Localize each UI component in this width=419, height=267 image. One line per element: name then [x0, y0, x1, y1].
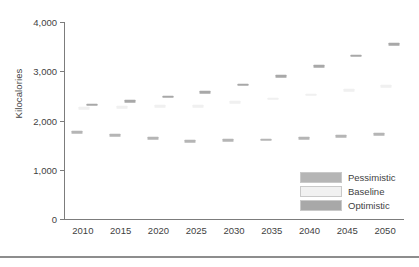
data-marker [109, 134, 120, 137]
y-tick [60, 22, 64, 23]
legend-label: Pessimistic [348, 172, 396, 183]
y-tick-label: 2,000 [33, 115, 57, 126]
x-tick-label: 2035 [261, 225, 282, 236]
y-tick-label: 3,000 [33, 66, 57, 77]
data-marker [192, 105, 203, 108]
y-tick [60, 219, 64, 220]
x-tick-label: 2020 [148, 225, 169, 236]
data-marker [351, 54, 362, 57]
y-tick [60, 121, 64, 122]
y-tick-label: 1,000 [33, 164, 57, 175]
x-tick-label: 2040 [299, 225, 320, 236]
data-marker [154, 105, 165, 108]
chart-figure: Kilocalories 01,0002,0003,0004,000 20102… [0, 0, 419, 267]
chart-legend: PessimisticBaselineOptimistic [300, 171, 396, 211]
data-marker [116, 106, 127, 109]
data-marker [230, 101, 241, 104]
data-marker [336, 135, 347, 138]
x-tick-label: 2015 [110, 225, 131, 236]
legend-label: Optimistic [348, 200, 390, 211]
y-tick-label: 0 [52, 214, 57, 225]
data-marker [124, 100, 135, 103]
y-axis-line [64, 22, 65, 219]
data-marker [389, 43, 400, 46]
legend-swatch [300, 172, 342, 183]
legend-label: Baseline [348, 186, 384, 197]
y-tick-label: 4,000 [33, 17, 57, 28]
data-marker [79, 107, 90, 110]
data-marker [86, 103, 97, 106]
legend-swatch [300, 186, 342, 197]
data-marker [298, 137, 309, 140]
x-tick-label: 2045 [337, 225, 358, 236]
legend-item[interactable]: Pessimistic [300, 171, 396, 183]
y-tick [60, 170, 64, 171]
data-marker [305, 93, 316, 96]
x-axis-line [64, 219, 404, 220]
data-marker [72, 131, 83, 134]
bottom-divider [0, 256, 419, 258]
x-tick-label: 2050 [375, 225, 396, 236]
data-marker [238, 83, 249, 86]
data-marker [200, 91, 211, 94]
data-marker [162, 96, 173, 99]
data-marker [275, 75, 286, 78]
data-marker [260, 138, 271, 141]
x-tick-label: 2025 [186, 225, 207, 236]
data-marker [223, 139, 234, 142]
data-marker [268, 98, 279, 101]
x-tick-label: 2030 [223, 225, 244, 236]
data-marker [185, 140, 196, 143]
data-marker [147, 137, 158, 140]
x-tick-label: 2010 [72, 225, 93, 236]
data-marker [313, 65, 324, 68]
legend-swatch [300, 200, 342, 211]
data-marker [381, 85, 392, 88]
data-marker [343, 89, 354, 92]
data-marker [374, 133, 385, 136]
legend-item[interactable]: Baseline [300, 185, 396, 197]
y-tick [60, 71, 64, 72]
y-axis-title: Kilocalories [13, 54, 24, 134]
legend-item[interactable]: Optimistic [300, 199, 396, 211]
